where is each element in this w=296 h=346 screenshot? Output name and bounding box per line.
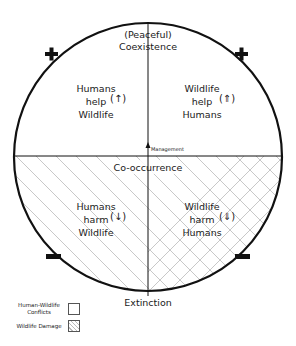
- legend-label-line: Human-Wildlife: [14, 302, 64, 309]
- quadrant-text: Wildlife: [66, 226, 126, 239]
- co-occurrence-label: Co-occurrence: [108, 162, 188, 174]
- arrow-up-icon: (↑): [110, 93, 126, 104]
- arrow-down-bold-icon: (⇓): [219, 211, 235, 222]
- minus-icon-bottom-right: [235, 254, 250, 259]
- quadrant-text: Wildlife: [66, 108, 126, 121]
- legend-label-line: Wildlife Damage: [14, 323, 64, 330]
- legend-swatch-hatched: [68, 320, 80, 332]
- management-label: Management: [151, 146, 184, 152]
- quadrant-text: Humans: [172, 226, 232, 239]
- extinction-label: Extinction: [108, 297, 188, 309]
- coexistence-label-line2: Coexistence: [108, 41, 188, 53]
- quadrant-text: Humans: [172, 108, 232, 121]
- arrow-up-bold-icon: (⇑): [219, 93, 235, 104]
- legend-label: Wildlife Damage: [14, 323, 64, 330]
- coexistence-label-line1: (Peaceful): [108, 29, 188, 41]
- legend-swatch-empty: [68, 303, 80, 315]
- legend-item-wildlife-damage: Wildlife Damage: [14, 320, 80, 332]
- plus-icon-top-right: [235, 48, 248, 61]
- legend-item-conflicts: Human-Wildlife Conflicts: [14, 302, 80, 315]
- minus-icon-bottom-left: [46, 254, 61, 259]
- coexistence-label: (Peaceful) Coexistence: [108, 29, 188, 53]
- management-arrowhead: [146, 142, 151, 148]
- legend-label: Human-Wildlife Conflicts: [14, 302, 64, 315]
- arrow-down-icon: (↓): [110, 211, 126, 222]
- legend-label-line: Conflicts: [14, 309, 64, 316]
